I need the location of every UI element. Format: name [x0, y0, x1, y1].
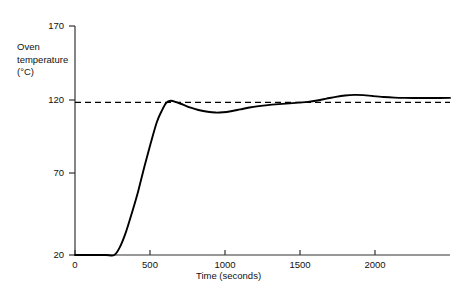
x-tick-label-1000: 1000 — [207, 260, 243, 270]
y-axis-title-line-2: temperature — [17, 54, 77, 67]
y-tick-label-20: 20 — [34, 250, 64, 260]
x-tick-label-0: 0 — [63, 260, 87, 270]
y-tick-label-170: 170 — [34, 21, 64, 31]
y-tick-label-70: 70 — [34, 168, 64, 178]
x-tick-label-500: 500 — [134, 260, 166, 270]
y-tick-label-120: 120 — [34, 95, 64, 105]
y-axis-title: Oven temperature (°C) — [17, 41, 77, 79]
y-axis-title-line-3: (°C) — [17, 66, 77, 79]
temperature-response-curve — [75, 95, 450, 256]
x-axis-title: Time (seconds) — [0, 270, 457, 281]
y-axis-title-line-1: Oven — [17, 41, 77, 54]
oven-temperature-step-response-chart: 170 120 70 20 0 500 1000 1500 2000 Oven … — [0, 0, 457, 294]
x-tick-marks — [75, 250, 375, 255]
x-tick-label-2000: 2000 — [357, 260, 393, 270]
x-tick-label-1500: 1500 — [282, 260, 318, 270]
